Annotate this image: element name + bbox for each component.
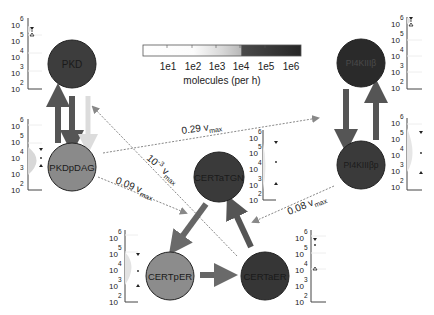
rate-label-pi4kiiibp-certaer: 0.08 vmax bbox=[286, 191, 329, 218]
edge-pkdpdag-pi4kiiib bbox=[103, 118, 318, 153]
rate-label-certaer-pkd: 10-3 vmax bbox=[143, 151, 182, 187]
svg-text:10: 10 bbox=[391, 119, 400, 128]
node-label: PI4KIIIβ bbox=[346, 58, 377, 68]
node-pi4kiiib[interactable]: PI4KIIIβ bbox=[337, 39, 385, 87]
network-diagram: 1e1 1e2 1e3 1e4 1e5 1e6 molecules (per h… bbox=[0, 0, 434, 315]
node-certaer[interactable]: CERTaER bbox=[241, 252, 289, 300]
svg-text:5: 5 bbox=[400, 129, 404, 136]
colorbar-tick: 1e3 bbox=[209, 61, 226, 72]
svg-text:10: 10 bbox=[391, 167, 400, 176]
svg-text:6: 6 bbox=[304, 228, 308, 235]
svg-text:10: 10 bbox=[11, 69, 20, 78]
svg-text:6: 6 bbox=[258, 128, 262, 135]
svg-text:3: 3 bbox=[20, 63, 24, 70]
node-pi4kiiibp[interactable]: PI4KIIIβp bbox=[337, 141, 385, 189]
svg-text:10: 10 bbox=[391, 135, 400, 144]
rate-label-pkdpdag-certper: 0.09 vmax bbox=[114, 175, 157, 202]
mini-plot-pkdpdag: 106 105 104 103 102 bbox=[11, 116, 43, 195]
svg-text:3: 3 bbox=[400, 161, 404, 168]
node-label: CERTaER bbox=[243, 271, 286, 282]
colorbar: 1e1 1e2 1e3 1e4 1e5 1e6 molecules (per h… bbox=[143, 45, 301, 86]
node-pkdpdag[interactable]: PKDpDAG bbox=[48, 143, 96, 191]
pi4k-arrows bbox=[346, 89, 376, 141]
svg-text:10: 10 bbox=[249, 149, 258, 158]
svg-text:2: 2 bbox=[400, 78, 404, 85]
node-label: PKDpDAG bbox=[49, 162, 94, 173]
svg-text:4: 4 bbox=[304, 260, 308, 267]
svg-text:5: 5 bbox=[258, 143, 262, 150]
svg-text:10: 10 bbox=[249, 134, 258, 143]
colorbar-tick: 1e4 bbox=[233, 61, 250, 72]
pkd-arrows bbox=[58, 95, 88, 144]
node-label: CERTpER bbox=[148, 271, 192, 282]
svg-text:10: 10 bbox=[11, 170, 20, 179]
colorbar-title: molecules (per h) bbox=[183, 75, 260, 86]
svg-text:5: 5 bbox=[20, 31, 24, 38]
svg-text:4: 4 bbox=[20, 148, 24, 155]
svg-text:4: 4 bbox=[118, 260, 122, 267]
svg-text:2: 2 bbox=[304, 292, 308, 299]
node-label: CERTaTGN bbox=[194, 172, 244, 183]
svg-text:10: 10 bbox=[391, 183, 400, 192]
svg-text:10: 10 bbox=[391, 68, 400, 77]
svg-text:5: 5 bbox=[118, 244, 122, 251]
svg-text:10: 10 bbox=[109, 298, 118, 307]
svg-text:10: 10 bbox=[249, 181, 258, 190]
svg-text:3: 3 bbox=[304, 276, 308, 283]
mini-plot-certatgn: 106 105 104 103 102 bbox=[249, 128, 278, 205]
arrow-certatgn-to-certper bbox=[176, 204, 206, 245]
svg-text:10: 10 bbox=[391, 36, 400, 45]
svg-text:3: 3 bbox=[118, 276, 122, 283]
node-pkd[interactable]: PKD bbox=[48, 40, 96, 88]
svg-text:10: 10 bbox=[109, 282, 118, 291]
svg-text:10: 10 bbox=[295, 250, 304, 259]
svg-text:10: 10 bbox=[295, 234, 304, 243]
mini-plot-pkd: 106 105 104 103 102 bbox=[11, 15, 42, 94]
svg-text:6: 6 bbox=[20, 116, 24, 123]
svg-text:6: 6 bbox=[118, 228, 122, 235]
svg-text:3: 3 bbox=[258, 175, 262, 182]
svg-text:10: 10 bbox=[109, 266, 118, 275]
node-label: PKD bbox=[62, 59, 83, 70]
svg-text:10: 10 bbox=[11, 85, 20, 94]
svg-text:6: 6 bbox=[20, 15, 24, 22]
svg-text:5: 5 bbox=[400, 30, 404, 37]
svg-text:2: 2 bbox=[258, 190, 262, 197]
colorbar-tick: 1e1 bbox=[160, 61, 177, 72]
svg-text:5: 5 bbox=[304, 244, 308, 251]
colorbar-tick: 1e2 bbox=[185, 61, 202, 72]
svg-text:6: 6 bbox=[400, 113, 404, 120]
svg-text:6: 6 bbox=[400, 14, 404, 21]
svg-text:10: 10 bbox=[11, 122, 20, 131]
svg-text:10: 10 bbox=[109, 250, 118, 259]
svg-text:10: 10 bbox=[11, 186, 20, 195]
svg-text:10: 10 bbox=[109, 234, 118, 243]
mini-plot-pi4kiiib: 106 105 104 103 102 bbox=[391, 14, 422, 93]
node-label: PI4KIIIβp bbox=[343, 160, 378, 170]
svg-text:10: 10 bbox=[295, 266, 304, 275]
svg-text:10: 10 bbox=[11, 53, 20, 62]
mini-plot-certaer: 106 105 104 103 102 bbox=[295, 228, 326, 307]
svg-text:10: 10 bbox=[391, 52, 400, 61]
mini-plot-certper: 106 105 104 103 102 bbox=[109, 228, 140, 307]
svg-text:10: 10 bbox=[391, 84, 400, 93]
svg-text:3: 3 bbox=[20, 164, 24, 171]
svg-text:4: 4 bbox=[400, 46, 404, 53]
svg-text:10: 10 bbox=[391, 151, 400, 160]
svg-text:2: 2 bbox=[400, 177, 404, 184]
svg-text:2: 2 bbox=[20, 79, 24, 86]
colorbar-tick: 1e6 bbox=[283, 61, 300, 72]
arrow-certaer-to-certatgn bbox=[232, 206, 251, 247]
svg-text:10: 10 bbox=[11, 154, 20, 163]
svg-text:10: 10 bbox=[295, 298, 304, 307]
colorbar-tick: 1e5 bbox=[258, 61, 275, 72]
node-certatgn[interactable]: CERTaTGN bbox=[194, 152, 244, 202]
svg-text:10: 10 bbox=[249, 165, 258, 174]
rate-label-pkdpdag-pi4kiiib: 0.29 vmax bbox=[181, 119, 223, 138]
svg-text:4: 4 bbox=[400, 145, 404, 152]
node-certper[interactable]: CERTpER bbox=[146, 252, 194, 300]
svg-text:10: 10 bbox=[11, 37, 20, 46]
mini-plot-pi4kiiibp: 106 105 104 103 102 bbox=[391, 113, 423, 192]
svg-text:5: 5 bbox=[20, 132, 24, 139]
svg-text:2: 2 bbox=[118, 292, 122, 299]
